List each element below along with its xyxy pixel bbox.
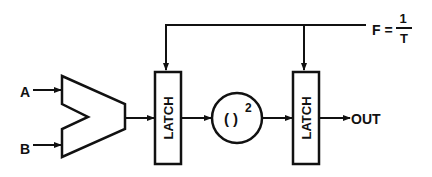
clock-line xyxy=(166,25,366,70)
input-arrows xyxy=(33,90,61,145)
svg-text:T: T xyxy=(400,31,408,46)
latch-1: LATCH xyxy=(155,72,181,164)
svg-text:F =: F = xyxy=(372,22,393,38)
svg-text:1: 1 xyxy=(399,11,406,26)
block-diagram: F = 1 T A B LATCH ( ) 2 LATCH OUT xyxy=(0,0,432,177)
clock-frequency-label: F = 1 T xyxy=(372,11,412,46)
input-b-label: B xyxy=(20,141,30,157)
svg-text:( ): ( ) xyxy=(224,110,238,127)
input-a-label: A xyxy=(20,84,30,100)
svg-text:LATCH: LATCH xyxy=(161,96,176,139)
svg-text:LATCH: LATCH xyxy=(299,96,314,139)
output-label: OUT xyxy=(351,111,381,127)
latch-2: LATCH xyxy=(293,72,319,164)
adder-block xyxy=(62,76,125,157)
square-block: ( ) 2 xyxy=(212,93,262,143)
svg-text:2: 2 xyxy=(245,101,252,115)
